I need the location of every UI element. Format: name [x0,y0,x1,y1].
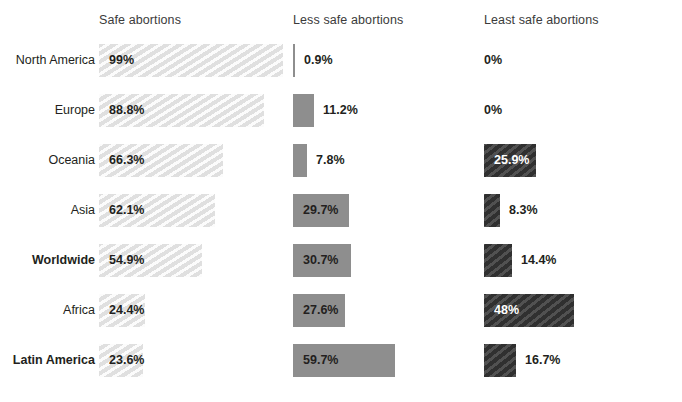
abortion-safety-bar-chart: Safe abortions Less safe abortions Least… [0,0,682,402]
bar-value-less: 7.8% [316,144,345,177]
column-header-safe: Safe abortions [99,13,181,27]
bar-value-less: 11.2% [323,94,358,127]
bar-less [293,94,314,127]
bar-value-less: 0.9% [304,44,333,77]
bar-value-least: 25.9% [494,144,529,177]
bar-value-safe: 62.1% [109,194,144,227]
bar-value-less: 30.7% [303,244,338,277]
bar-value-safe: 23.6% [109,344,144,377]
bar-value-least: 16.7% [525,344,560,377]
bar-value-less: 29.7% [303,194,338,227]
column-header-least-safe: Least safe abortions [484,13,599,27]
row-label-europe: Europe [55,94,95,127]
bar-value-least: 0% [484,94,502,127]
table-row: Oceania66.3%7.8%25.9% [0,144,682,194]
bar-least [484,194,500,227]
bar-value-safe: 88.8% [109,94,144,127]
table-row: Asia62.1%29.7%8.3% [0,194,682,244]
column-header-less-safe: Less safe abortions [293,13,403,27]
bar-value-least: 14.4% [521,244,556,277]
bar-value-safe: 99% [109,44,134,77]
row-label-north-america: North America [16,44,95,77]
bar-less [293,44,295,77]
row-label-africa: Africa [63,294,95,327]
row-label-oceania: Oceania [48,144,95,177]
row-label-latin-america: Latin America [13,344,95,377]
bar-value-least: 0% [484,44,502,77]
bar-value-safe: 66.3% [109,144,144,177]
bar-value-safe: 54.9% [109,244,144,277]
table-row: Africa24.4%27.6%48% [0,294,682,344]
bar-value-least: 48% [494,294,519,327]
table-row: Europe88.8%11.2%0% [0,94,682,144]
table-row: Latin America23.6%59.7%16.7% [0,344,682,394]
bar-value-safe: 24.4% [109,294,144,327]
bar-value-less: 27.6% [303,294,338,327]
table-row: North America99%0.9%0% [0,44,682,94]
bar-least [484,344,516,377]
bar-least [484,244,512,277]
row-label-asia: Asia [71,194,95,227]
row-label-worldwide: Worldwide [32,244,95,277]
bar-value-less: 59.7% [303,344,338,377]
bar-less [293,144,307,177]
bar-value-least: 8.3% [509,194,538,227]
table-row: Worldwide54.9%30.7%14.4% [0,244,682,294]
